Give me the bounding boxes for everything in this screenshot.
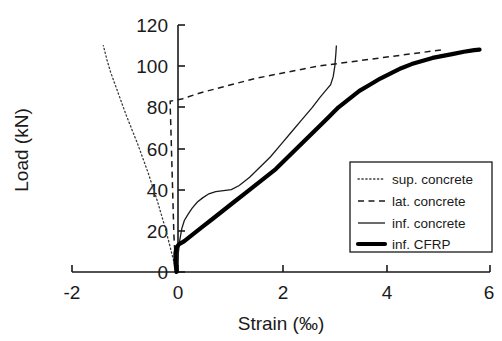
- chart-figure: -2 0 2 4 6 0 20 40 60 80 100 120 Strain …: [0, 0, 502, 341]
- legend: sup. concrete lat. concrete inf. concret…: [350, 162, 492, 252]
- y-tick-label-120: 120: [136, 15, 168, 36]
- y-tick-label-100: 100: [136, 56, 168, 77]
- load-strain-chart: -2 0 2 4 6 0 20 40 60 80 100 120 Strain …: [0, 0, 502, 341]
- legend-label-lat-concrete: lat. concrete: [392, 194, 466, 209]
- y-axis-title: Load (kN): [11, 108, 32, 191]
- x-tick-label--2: -2: [64, 282, 81, 303]
- x-tick-label-0: 0: [173, 282, 184, 303]
- x-tick-label-2: 2: [278, 282, 289, 303]
- series-path-inf-concrete: [177, 46, 337, 272]
- x-tick-label-6: 6: [484, 282, 495, 303]
- legend-label-sup-concrete: sup. concrete: [392, 172, 473, 187]
- y-tick-label-60: 60: [147, 139, 168, 160]
- x-axis-title: Strain (‰): [238, 313, 325, 334]
- y-tick-label-20: 20: [147, 221, 168, 242]
- y-tick-label-0: 0: [157, 262, 168, 283]
- y-tick-label-80: 80: [147, 97, 168, 118]
- y-axis-ticks: [178, 25, 185, 272]
- legend-label-inf-cfrp: inf. CFRP: [392, 237, 451, 252]
- legend-label-inf-concrete: inf. concrete: [392, 216, 466, 231]
- x-tick-label-4: 4: [382, 282, 393, 303]
- x-axis-ticks: [72, 265, 490, 272]
- y-tick-label-40: 40: [147, 180, 168, 201]
